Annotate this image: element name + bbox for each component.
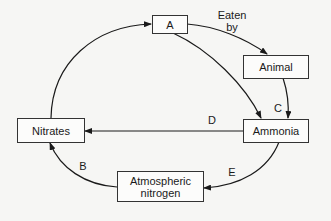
node-atmospheric-nitrogen: Atmospheric nitrogen <box>117 171 204 202</box>
node-nitrates-label: Nitrates <box>32 125 70 137</box>
node-a: A <box>152 15 188 34</box>
edge-label-e: E <box>226 166 238 178</box>
node-atmospheric-nitrogen-label-line2: nitrogen <box>141 187 181 199</box>
edge-label-eaten-by: Eaten by <box>212 9 252 33</box>
node-atmospheric-nitrogen-label-line1: Atmospheric <box>130 175 191 187</box>
edge-label-b: B <box>77 160 89 172</box>
edge-label-c: C <box>272 102 284 114</box>
node-nitrates: Nitrates <box>17 118 85 143</box>
edge-label-eaten-by-line2: by <box>212 21 252 33</box>
edge-label-d: D <box>206 114 218 126</box>
node-ammonia-label: Ammonia <box>253 125 299 137</box>
node-animal: Animal <box>243 55 309 79</box>
nitrogen-cycle-diagram: A Animal Ammonia Nitrates Atmospheric ni… <box>0 0 331 221</box>
node-a-label: A <box>166 19 173 31</box>
arrow-nitrates-to-a <box>51 24 151 118</box>
arrow-ammonia-to-atmospheric-nitrogen <box>204 142 279 188</box>
node-ammonia: Ammonia <box>243 119 309 143</box>
edge-label-eaten-by-line1: Eaten <box>212 9 252 21</box>
node-animal-label: Animal <box>259 61 293 73</box>
